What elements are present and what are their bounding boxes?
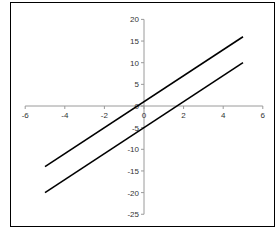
x-axis-ticks: -6-4-20246 — [22, 106, 266, 120]
x-tick-label: 2 — [181, 111, 186, 120]
y-tick-label: 15 — [130, 37, 139, 46]
y-tick-label: -20 — [127, 189, 139, 198]
y-tick-label: -25 — [127, 210, 139, 219]
x-tick-label: 4 — [221, 111, 226, 120]
x-tick-label: -6 — [22, 111, 30, 120]
y-tick-label: 10 — [130, 59, 139, 68]
y-tick-label: 5 — [135, 80, 140, 89]
x-tick-label: 6 — [261, 111, 266, 120]
y-tick-label: 20 — [130, 15, 139, 24]
x-tick-label: -2 — [101, 111, 109, 120]
line-chart: -6-4-20246 20151050-5-10-15-20-25 — [0, 0, 280, 238]
y-tick-label: -10 — [127, 145, 139, 154]
x-tick-label: -4 — [61, 111, 69, 120]
y-tick-label: -15 — [127, 167, 139, 176]
x-tick-label: 0 — [142, 111, 147, 120]
